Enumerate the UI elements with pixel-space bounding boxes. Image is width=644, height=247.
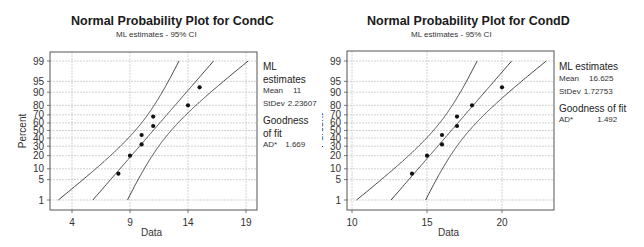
- y-axis-label: Percent: [17, 114, 28, 149]
- x-tick-label: 14: [182, 217, 194, 228]
- data-point: [140, 133, 144, 137]
- data-point: [455, 114, 459, 118]
- y-tick-label: 10: [33, 163, 45, 174]
- y-tick-label: 80: [330, 100, 342, 111]
- x-tick-label: 19: [240, 217, 252, 228]
- data-point: [140, 142, 144, 146]
- legend-header: ML estimates: [559, 61, 626, 74]
- x-tick-label: 15: [421, 217, 433, 228]
- data-point: [198, 85, 202, 89]
- data-point: [128, 154, 132, 158]
- data-point: [425, 154, 429, 158]
- gof-header: Goodness of fit: [559, 103, 626, 116]
- x-tick-label: 9: [127, 217, 133, 228]
- data-point: [440, 142, 444, 146]
- y-tick-label: 20: [330, 150, 342, 161]
- y-axis-label: Percent: [322, 113, 325, 148]
- x-axis-label: Data: [141, 227, 163, 238]
- data-point: [151, 114, 155, 118]
- legend-stdev: StDev2.23607: [263, 99, 322, 109]
- data-point: [151, 124, 155, 128]
- fit-line: [391, 61, 512, 200]
- y-tick-label: 70: [330, 109, 342, 120]
- gof-header: Goodness: [263, 115, 322, 128]
- y-tick-label: 20: [33, 150, 45, 161]
- plot-frame: [50, 52, 257, 210]
- x-tick-label: 20: [496, 217, 508, 228]
- chart-condc: Normal Probability Plot for CondC ML est…: [0, 0, 322, 247]
- y-tick-label: 70: [33, 109, 45, 120]
- y-tick-label: 10: [330, 163, 342, 174]
- data-point: [470, 103, 474, 107]
- data-point: [186, 103, 190, 107]
- data-point: [116, 172, 120, 176]
- x-tick-label: 4: [69, 217, 75, 228]
- legend: ML estimates Mean16.625 StDev1.72753 Goo…: [559, 61, 626, 125]
- data-point: [440, 133, 444, 137]
- x-tick-label: 10: [346, 217, 358, 228]
- legend-mean: Mean16.625: [559, 74, 626, 84]
- legend-ad: AD*1.492: [559, 115, 626, 125]
- chart-condd: Normal Probability Plot for CondD ML est…: [322, 0, 644, 247]
- y-tick-label: 99: [330, 56, 342, 67]
- legend-header: ML estimates: [263, 61, 322, 86]
- legend-ad: AD*1.669: [263, 140, 322, 150]
- y-tick-label: 5: [335, 174, 341, 185]
- y-tick-label: 90: [33, 87, 45, 98]
- x-axis-label: Data: [438, 227, 460, 238]
- y-tick-label: 1: [38, 195, 44, 206]
- data-point: [455, 124, 459, 128]
- legend-stdev: StDev1.72753: [559, 87, 626, 97]
- y-tick-label: 1: [335, 195, 341, 206]
- ci-lower-band: [58, 61, 179, 200]
- gof-header-2: of fit: [263, 128, 322, 141]
- y-tick-label: 95: [33, 76, 45, 87]
- y-tick-label: 90: [330, 87, 342, 98]
- y-tick-label: 95: [330, 76, 342, 87]
- legend-mean: Mean11: [263, 86, 322, 96]
- data-point: [410, 172, 414, 176]
- y-tick-label: 80: [33, 100, 45, 111]
- y-tick-label: 99: [33, 56, 45, 67]
- data-point: [500, 85, 504, 89]
- y-tick-label: 5: [38, 174, 44, 185]
- legend: ML estimates Mean11 StDev2.23607 Goodnes…: [263, 61, 322, 150]
